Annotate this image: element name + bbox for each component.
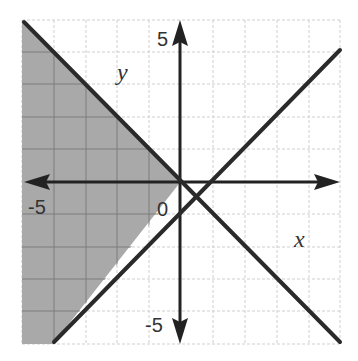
tick-label-y-pos5: 5 (157, 28, 168, 50)
coordinate-plane: -5 0 5 -5 y x (0, 0, 358, 361)
x-axis-label: x (293, 226, 305, 252)
tick-label-x-neg5: -5 (28, 196, 46, 218)
tick-label-y-neg5: -5 (145, 314, 163, 336)
y-axis-label: y (115, 59, 128, 85)
tick-label-origin: 0 (157, 198, 168, 220)
